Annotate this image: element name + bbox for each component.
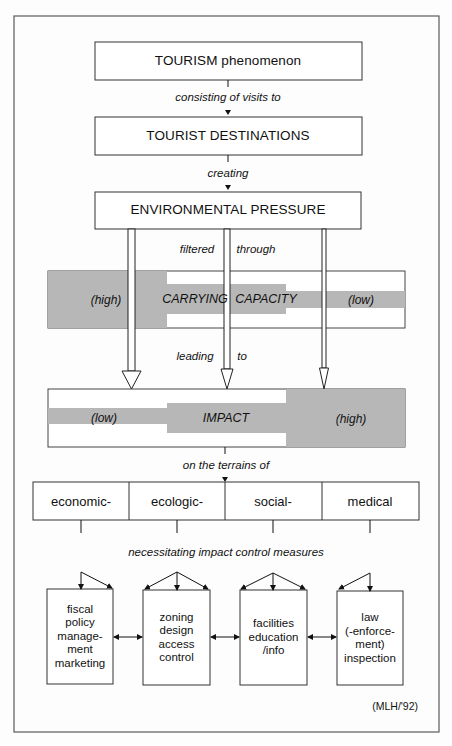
measure-line: /info <box>263 644 285 658</box>
measure-line: (-enforce- <box>345 625 395 639</box>
cc-segment-low <box>286 291 405 308</box>
measure-line: manage- <box>57 630 102 644</box>
impact-word: IMPACT <box>203 412 249 425</box>
cc-high-label: (high) <box>91 294 122 306</box>
branch-arrows-zoning <box>145 572 208 590</box>
measure-line: design <box>160 624 194 638</box>
connector-through: through <box>236 244 275 256</box>
cc-word-carrying: CARRYING <box>162 293 228 306</box>
hollow-arrowhead-icon <box>221 369 233 389</box>
hollow-arrowhead-icon <box>122 371 141 389</box>
cc-low-label: (low) <box>348 294 374 306</box>
measure-line: facilities <box>253 617 294 631</box>
branch-arrows-fiscal <box>81 572 112 589</box>
terrain-social: social- <box>254 495 292 508</box>
measure-text-law: law (-enforce- ment) inspection <box>337 591 403 685</box>
measure-line: inspection <box>344 652 396 666</box>
down-triangle-icon <box>225 185 231 190</box>
connector-visits: consisting of visits to <box>175 92 280 104</box>
terrain-economic: economic- <box>51 495 111 508</box>
connector-terrains: on the terrains of <box>183 460 269 472</box>
measure-line: education <box>249 631 299 645</box>
measure-line: access <box>159 638 195 652</box>
branch-arrows-law <box>339 573 370 591</box>
measure-text-fiscal: fiscal policy manage- ment marketing <box>47 589 113 684</box>
measure-line: law <box>361 611 378 625</box>
measure-line: ment <box>67 643 93 657</box>
credit-label: (MLH/'92) <box>372 700 418 712</box>
measure-text-zoning: zoning design access control <box>143 590 210 685</box>
connector-filtered: filtered <box>180 244 215 256</box>
pressure-box-label: ENVIRONMENTAL PRESSURE <box>131 203 326 217</box>
down-triangle-icon <box>222 477 228 482</box>
measure-line: control <box>159 651 194 665</box>
impact-low-label: (low) <box>91 412 117 424</box>
down-triangle-icon <box>225 110 231 115</box>
connector-to: to <box>237 351 247 363</box>
connector-leading: leading <box>176 351 213 363</box>
destinations-box-label: TOURIST DESTINATIONS <box>146 129 309 143</box>
measure-text-facilities: facilities education /info <box>240 590 307 685</box>
hollow-arrowhead-icon <box>320 368 329 389</box>
cc-word-capacity: CAPACITY <box>235 293 297 306</box>
terrain-ecologic: ecologic- <box>151 495 203 508</box>
impact-high-label: (high) <box>336 413 367 425</box>
measure-line: zoning <box>160 611 194 625</box>
measure-line: ment) <box>355 638 384 652</box>
connector-creating: creating <box>208 168 249 180</box>
measure-line: fiscal <box>67 603 93 617</box>
terrain-medical: medical <box>348 495 393 508</box>
diagram-canvas: TOURISM phenomenon consisting of visits … <box>0 0 452 746</box>
connector-necessitating: necessitating impact control measures <box>128 547 324 559</box>
tourism-box-label: TOURISM phenomenon <box>155 54 301 68</box>
measure-line: policy <box>65 616 94 630</box>
branch-arrows-facilities <box>241 573 305 590</box>
measure-line: marketing <box>55 657 106 671</box>
